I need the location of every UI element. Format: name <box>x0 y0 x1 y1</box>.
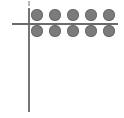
dot-marker <box>85 25 97 37</box>
upper-dot-row <box>31 9 115 21</box>
top-tick-mark-icon <box>28 1 30 6</box>
dot-marker <box>103 25 115 37</box>
dot-marker <box>49 9 61 21</box>
dot-marker <box>103 9 115 21</box>
dot-marker <box>31 25 43 37</box>
lower-dot-row <box>31 25 115 37</box>
dot-marker <box>31 9 43 21</box>
diagram-canvas <box>0 0 124 118</box>
dot-marker <box>85 9 97 21</box>
dot-marker <box>67 25 79 37</box>
dot-marker <box>67 9 79 21</box>
dot-marker <box>49 25 61 37</box>
